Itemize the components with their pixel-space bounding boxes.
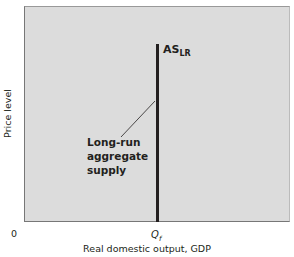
x-axis-label: Real domestic output, GDP xyxy=(0,243,294,254)
origin-label: 0 xyxy=(11,228,17,239)
qf-tick-label: Qf xyxy=(151,229,161,243)
as-lr-label: ASLR xyxy=(163,43,191,58)
curve-label: Long-run aggregate supply xyxy=(87,135,148,177)
leader-line xyxy=(0,0,294,257)
y-axis-label: Price level xyxy=(2,79,13,149)
